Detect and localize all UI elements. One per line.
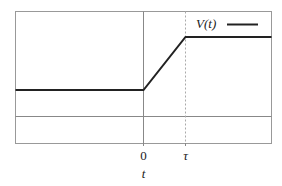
x-tick-label-zero: 0 xyxy=(140,148,147,163)
x-tick-label-tau: τ xyxy=(183,148,189,163)
legend-label: V(t) xyxy=(196,16,216,31)
x-axis-label: t xyxy=(142,166,146,181)
chart: V(t) 0 τ t xyxy=(0,0,282,186)
